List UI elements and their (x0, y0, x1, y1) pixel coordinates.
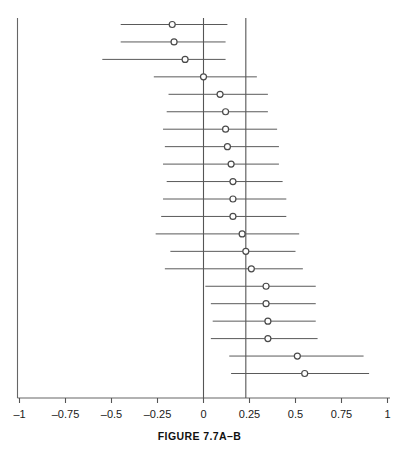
point-estimate-marker (223, 109, 229, 115)
reference-lines (204, 18, 246, 398)
point-estimate-marker (230, 196, 236, 202)
figure-caption: FIGURE 7.7A–B (0, 430, 399, 442)
point-estimate-marker (248, 266, 254, 272)
point-estimate-marker (217, 91, 223, 97)
forest-plot-figure: –1–0.75–0.5–0.2500.250.50.751 FIGURE 7.7… (0, 0, 399, 452)
point-estimate-marker (265, 318, 271, 324)
point-estimate-marker (223, 126, 229, 132)
forest-plot-chart: –1–0.75–0.5–0.2500.250.50.751 (0, 0, 399, 452)
point-estimate-marker (239, 231, 245, 237)
axis-tick-marks (20, 398, 388, 403)
axis-tick-label: –0.75 (52, 408, 80, 420)
axis-tick-label: –0.25 (144, 408, 172, 420)
axis-tick-label: 0.5 (288, 408, 303, 420)
point-estimate-marker (263, 283, 269, 289)
axis-tick-label: –1 (13, 408, 25, 420)
point-estimate-marker (243, 248, 249, 254)
point-estimate-marker (182, 56, 188, 62)
point-estimate-marker (169, 22, 175, 28)
axis-tick-label: –0.5 (101, 408, 122, 420)
axis-tick-label: 0.75 (331, 408, 352, 420)
point-estimate-marker (224, 144, 230, 150)
axis-tick-label: 0.25 (239, 408, 260, 420)
axis-tick-label: 0 (200, 408, 206, 420)
point-estimate-marker (302, 371, 308, 377)
point-estimate-marker (171, 39, 177, 45)
point-estimate-marker (230, 179, 236, 185)
axis-tick-labels: –1–0.75–0.5–0.2500.250.50.751 (13, 408, 390, 420)
point-estimate-marker (201, 74, 207, 80)
point-estimate-marker (228, 161, 234, 167)
point-estimate-marker (230, 213, 236, 219)
point-estimate-marker (263, 301, 269, 307)
point-estimate-marker (294, 353, 300, 359)
point-estimate-marker (265, 336, 271, 342)
axis-tick-label: 1 (384, 408, 390, 420)
